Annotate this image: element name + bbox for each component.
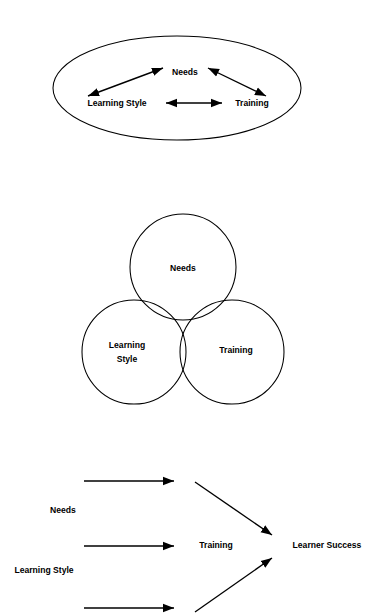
ellipse-node-training: Training	[235, 98, 268, 108]
venn-label-needs: Needs	[170, 263, 196, 273]
venn-label-style: Style	[117, 354, 138, 364]
diagram-canvas: Needs Learning Style Training Needs Lear…	[0, 0, 377, 616]
venn-label-training: Training	[219, 345, 252, 355]
flow-label-learning-style: Learning Style	[14, 565, 73, 575]
figure-venn-diagram: Needs Learning Style Training	[0, 190, 377, 430]
flow-label-learner-success: Learner Success	[293, 540, 362, 550]
venn-label-learning: Learning	[109, 340, 145, 350]
ellipse-boundary	[53, 36, 301, 140]
flow-label-needs: Needs	[50, 505, 76, 515]
figure-ellipse-interrelation: Needs Learning Style Training	[0, 0, 377, 190]
ellipse-node-learning-style: Learning Style	[87, 98, 146, 108]
flow-label-training: Training	[199, 540, 232, 550]
connector-learning-style-needs	[88, 68, 163, 96]
venn-circle-learning-style	[82, 300, 186, 404]
figure-convergent-flow: Needs Learning Style Training Learner Su…	[0, 430, 377, 616]
connector-needs-training	[208, 68, 266, 96]
ellipse-node-needs: Needs	[172, 67, 198, 77]
flow-arrow-training-to-success-lower	[195, 558, 272, 612]
flow-arrow-training-to-success-upper	[195, 482, 272, 535]
